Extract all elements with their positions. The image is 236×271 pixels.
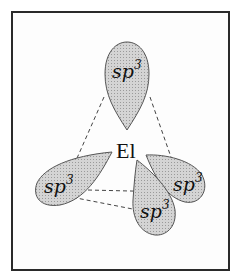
orbital-lobe-top: sp3 <box>105 42 149 130</box>
center-atom-label: El <box>116 138 136 163</box>
orbital-lobe-left: sp3 <box>36 152 112 205</box>
